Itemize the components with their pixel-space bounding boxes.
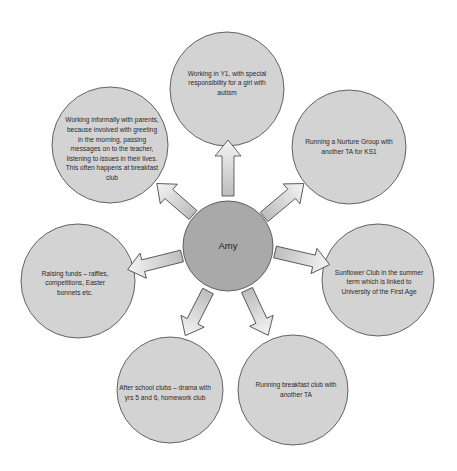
arrow-icon-bottom-right — [235, 285, 280, 341]
arrow-icon-bottom-left — [174, 285, 220, 341]
node-label-left: Raising funds – raffles, competitions, E… — [34, 267, 116, 299]
center-label: Amy — [188, 236, 268, 256]
node-label-bottom-right: Running breakfast club with another TA — [254, 378, 338, 402]
arrow-icon-top — [215, 140, 241, 196]
node-label-top-right: Running a Nurture Group with another TA … — [302, 134, 396, 160]
node-label-top: Working in Y1, with special responsibili… — [180, 65, 274, 101]
node-label-right: Sunflower Club in the summer term which … — [334, 262, 424, 302]
node-label-bottom-left: After school clubs – drama with yrs 5 an… — [115, 375, 215, 411]
node-label-top-left: Working informally with parents, because… — [64, 105, 160, 193]
